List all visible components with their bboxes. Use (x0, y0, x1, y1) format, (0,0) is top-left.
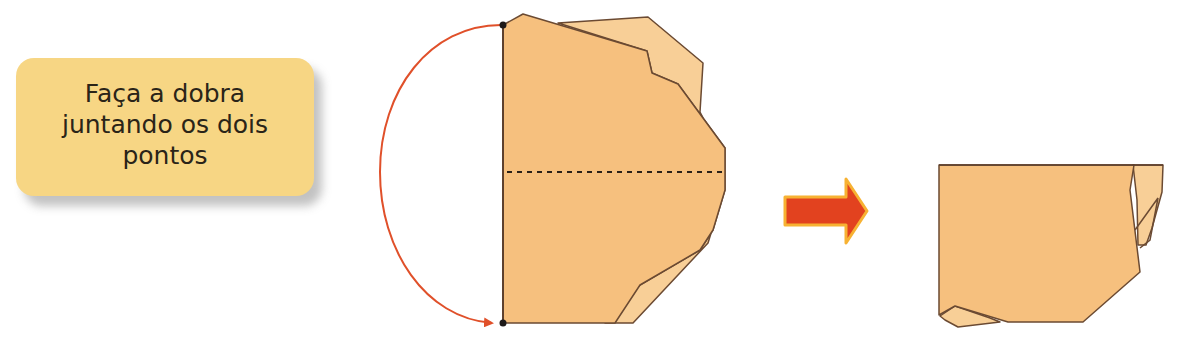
fold-point-top (500, 22, 507, 29)
folded-flap-right (1133, 165, 1163, 245)
step-arrow-icon (785, 179, 867, 243)
paper-before-fold (380, 14, 725, 327)
join-points-arc-arrow (380, 25, 501, 323)
fold-diagram (0, 0, 1187, 348)
folded-paper-main (939, 165, 1140, 322)
fold-point-bottom (500, 320, 507, 327)
paper-after-fold (939, 165, 1163, 327)
